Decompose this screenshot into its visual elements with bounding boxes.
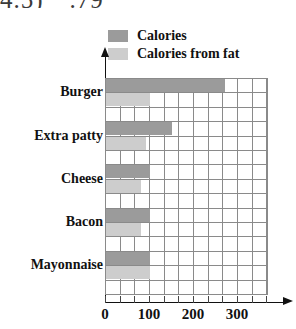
bar-calories-from-fat-mayonnaise <box>106 266 150 279</box>
bar-calories-extra-patty <box>106 122 172 135</box>
legend-item-calories: Calories <box>108 27 239 44</box>
gridline-vertical <box>252 78 253 294</box>
gridline-vertical <box>208 78 209 294</box>
x-axis-tick <box>266 296 267 303</box>
x-axis-tick <box>105 296 106 303</box>
x-axis-tick <box>134 296 135 303</box>
x-axis-tick <box>164 296 165 303</box>
bar-calories-mayonnaise <box>106 252 150 265</box>
x-axis-tick <box>120 296 121 303</box>
x-axis-tick <box>222 296 223 303</box>
gridline-vertical <box>178 78 179 294</box>
x-axis-tick <box>193 296 194 303</box>
y-axis-label-mayonnaise: Mayonnaise <box>0 257 103 273</box>
x-axis-tick <box>252 296 253 303</box>
gridline-vertical <box>237 78 238 294</box>
x-axis-tick <box>237 296 238 303</box>
bar-calories-from-fat-bacon <box>106 223 141 236</box>
x-axis-line <box>105 302 285 303</box>
legend-swatch-calories-from-fat <box>108 48 128 60</box>
bar-calories-bacon <box>106 209 150 222</box>
gridline-horizontal <box>105 236 268 237</box>
x-axis-arrow <box>283 297 293 305</box>
gridline-horizontal <box>105 150 268 151</box>
x-axis-tick-label-100: 100 <box>129 306 169 323</box>
gridline-horizontal <box>105 107 268 108</box>
gridline-horizontal <box>105 193 268 194</box>
x-axis-tick <box>178 296 179 303</box>
gridline-vertical <box>193 78 194 294</box>
gridline-horizontal <box>105 294 268 295</box>
y-axis-category-labels: BurgerExtra pattyCheeseBaconMayonnaise <box>0 0 103 329</box>
legend-label-calories: Calories <box>137 28 187 44</box>
grid-right-border <box>267 78 268 294</box>
y-axis-label-cheese: Cheese <box>0 171 103 187</box>
bar-calories-from-fat-burger <box>106 93 150 106</box>
y-axis-label-bacon: Bacon <box>0 214 103 230</box>
x-axis-tick <box>149 296 150 303</box>
plot-area <box>105 78 268 294</box>
x-axis-tick-label-300: 300 <box>217 306 257 323</box>
x-axis-tick-label-200: 200 <box>173 306 213 323</box>
gridline-horizontal <box>105 280 268 281</box>
legend-item-calories-from-fat: Calories from fat <box>108 45 239 62</box>
x-axis-tick-label-0: 0 <box>85 306 125 323</box>
bar-calories-from-fat-extra-patty <box>106 137 146 150</box>
y-axis-label-burger: Burger <box>0 84 103 100</box>
gridline-vertical <box>222 78 223 294</box>
gridline-vertical <box>164 78 165 294</box>
bar-calories-burger <box>106 79 225 92</box>
y-axis-label-extra-patty: Extra patty <box>0 128 103 144</box>
bar-calories-from-fat-cheese <box>106 180 141 193</box>
x-axis-tick <box>208 296 209 303</box>
legend-label-calories-from-fat: Calories from fat <box>137 46 239 62</box>
legend-swatch-calories <box>108 30 128 42</box>
bar-calories-cheese <box>106 165 150 178</box>
chart-legend: Calories Calories from fat <box>108 27 239 63</box>
